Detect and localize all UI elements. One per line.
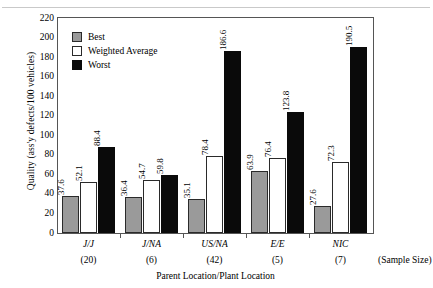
- bar-value-label: 123.8: [281, 91, 291, 111]
- x-axis-sample-size-label: (5): [243, 255, 313, 265]
- legend-swatch-icon: [72, 32, 82, 42]
- scan-artifact-line: [2, 7, 430, 8]
- bar-value-label: 54.7: [137, 163, 147, 179]
- bar: 52.1: [80, 182, 97, 233]
- bar-value-label: 76.4: [263, 142, 273, 158]
- bar-value-label: 36.4: [119, 181, 129, 197]
- bar-value-label: 59.8: [155, 158, 165, 174]
- x-axis-separator-tick: [183, 234, 184, 238]
- bar-group: 35.178.4186.6: [188, 18, 241, 233]
- legend-swatch-icon: [72, 60, 82, 70]
- bar: 59.8: [161, 175, 178, 233]
- y-axis-tick-label: 200: [8, 33, 54, 42]
- y-axis-tick-label: 220: [8, 14, 54, 23]
- bar-group: 27.672.3190.5: [314, 18, 367, 233]
- bar: 76.4: [269, 158, 286, 233]
- bar-value-label: 63.9: [245, 154, 255, 170]
- y-axis-tick-label: 140: [8, 92, 54, 101]
- bar: 72.3: [332, 162, 349, 233]
- x-axis-category-label: E/E: [243, 239, 313, 249]
- y-axis-tick-label: 160: [8, 72, 54, 81]
- legend: BestWeighted AverageWorst: [72, 30, 158, 72]
- bar-value-label: 35.1: [182, 182, 192, 198]
- y-axis-tick-label: 180: [8, 53, 54, 62]
- x-axis-category-label: J/J: [54, 239, 124, 249]
- bar-group: 63.976.4123.8: [251, 18, 304, 233]
- bar: 78.4: [206, 156, 223, 233]
- bar: 54.7: [143, 180, 160, 233]
- bar-value-label: 186.6: [218, 29, 228, 49]
- legend-label: Worst: [88, 60, 110, 70]
- bar: 88.4: [98, 147, 115, 233]
- bar-value-label: 27.6: [308, 189, 318, 205]
- bar: 190.5: [350, 47, 367, 233]
- legend-item: Best: [72, 30, 158, 44]
- x-axis-sample-size-label: (42): [180, 255, 250, 265]
- x-axis-separator-tick: [309, 234, 310, 238]
- bar: 36.4: [125, 197, 142, 233]
- x-axis-category-label: J/NA: [117, 239, 187, 249]
- bar: 35.1: [188, 199, 205, 233]
- bar-value-label: 52.1: [74, 165, 84, 181]
- bar: 123.8: [287, 112, 304, 233]
- bar-value-label: 37.6: [56, 180, 66, 196]
- bar-chart-figure: Quality (ass'y defects/100 vehicles) 020…: [0, 0, 433, 288]
- y-axis-tick-label: 0: [8, 229, 54, 238]
- legend-label: Best: [88, 32, 105, 42]
- legend-swatch-icon: [72, 46, 82, 56]
- y-axis-tick-label: 40: [8, 189, 54, 198]
- legend-item: Worst: [72, 58, 158, 72]
- bar-value-label: 78.4: [200, 140, 210, 156]
- legend-label: Weighted Average: [88, 46, 158, 56]
- x-axis-separator-tick: [246, 234, 247, 238]
- bar-value-label: 72.3: [326, 146, 336, 162]
- x-axis-category-label: US/NA: [180, 239, 250, 249]
- bar-value-label: 88.4: [92, 130, 102, 146]
- sample-size-note: (Sample Size): [378, 255, 432, 265]
- y-axis-tick-label: 120: [8, 111, 54, 120]
- x-axis-title: Parent Location/Plant Location: [57, 271, 374, 281]
- x-axis-category-label: NIC: [306, 239, 376, 249]
- x-axis-sample-size-label: (20): [54, 255, 124, 265]
- bar: 63.9: [251, 171, 268, 233]
- x-axis-sample-size-label: (6): [117, 255, 187, 265]
- bar-value-label: 190.5: [344, 26, 354, 46]
- legend-item: Weighted Average: [72, 44, 158, 58]
- y-axis-tick-label: 20: [8, 209, 54, 218]
- y-axis-tick-label: 80: [8, 150, 54, 159]
- bar: 37.6: [62, 196, 79, 233]
- bar: 27.6: [314, 206, 331, 233]
- x-axis-separator-tick: [120, 234, 121, 238]
- y-axis-tick-label: 100: [8, 131, 54, 140]
- x-axis-sample-size-label: (7): [306, 255, 376, 265]
- y-axis-tick-label: 60: [8, 170, 54, 179]
- bar: 186.6: [224, 51, 241, 233]
